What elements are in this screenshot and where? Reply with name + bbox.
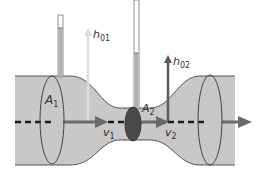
- cross-section-a2: [125, 107, 141, 141]
- left-pressure-tube: [58, 15, 63, 77]
- throat-pressure-tube: [134, 0, 139, 109]
- venturi-diagram: h01 h02 v1 v2 A1 A2: [0, 0, 265, 180]
- h01-label: h01: [93, 28, 110, 43]
- a2-label: A2: [141, 102, 155, 117]
- h02-label: h02: [173, 55, 190, 70]
